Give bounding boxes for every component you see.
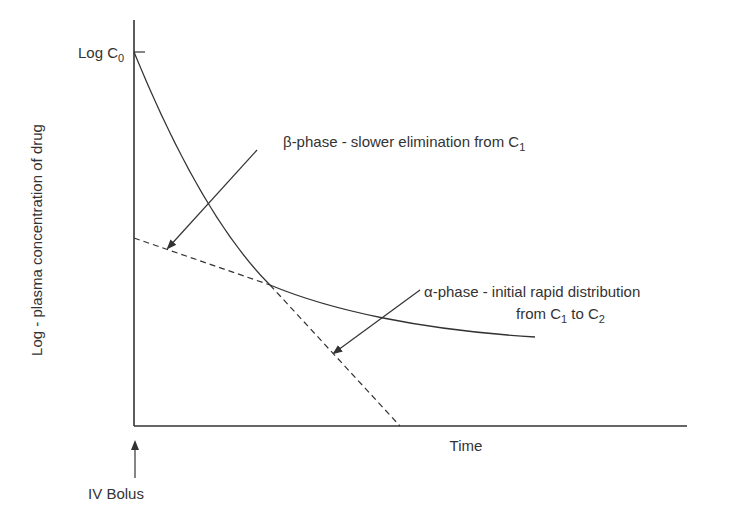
alpha-arrow <box>334 290 420 353</box>
y-axis-label: Log - plasma concentration of drug <box>28 124 45 356</box>
alpha-phase-label-line1: α-phase - initial rapid distribution <box>424 283 640 300</box>
y-tick-label: Log C0 <box>78 44 124 64</box>
iv-bolus-label: IV Bolus <box>88 485 144 502</box>
alpha-phase-label-line2: from C1 to C2 <box>516 305 605 325</box>
beta-phase-label: β-phase - slower elimination from C1 <box>283 133 525 153</box>
x-axis-label: Time <box>450 437 483 454</box>
beta-arrow <box>168 150 257 248</box>
pharmacokinetic-diagram: Log C0 Log - plasma concentration of dru… <box>0 0 745 523</box>
